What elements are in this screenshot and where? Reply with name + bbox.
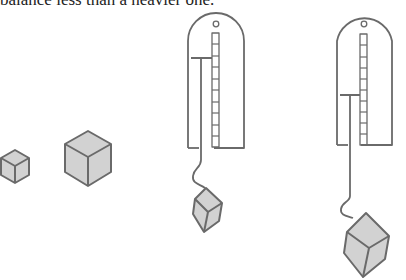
balance-illustration [0, 0, 406, 280]
hanging-large-cube-icon [344, 213, 389, 277]
large-cube-icon [65, 131, 111, 186]
small-cube-icon [1, 150, 29, 183]
spring-scale-light [188, 13, 244, 188]
hanging-small-cube-icon [193, 188, 222, 232]
spring-scale-heavy [337, 18, 392, 218]
